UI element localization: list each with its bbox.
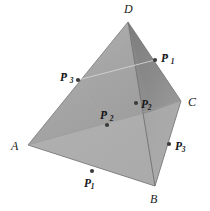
point-label-base: P [84,177,91,189]
point-label-subscript: 3 [182,145,186,154]
point-marker-p3p [76,78,80,82]
vertex-label-d: D [124,3,133,15]
point-label-subscript: 3 [70,76,74,85]
point-label-subscript: 1 [91,182,95,191]
point-label-base: P [141,98,148,110]
point-label-p1p: P′1 [161,53,175,65]
point-label-base: P [175,140,182,152]
point-label-p1: P1 [84,178,95,190]
point-marker-p3 [167,142,171,146]
point-marker-p1p [153,58,157,62]
point-label-subscript: 2 [148,103,152,112]
point-label-p3: P3 [175,141,186,153]
vertex-label-c: C [188,96,196,108]
point-label-p2: P2 [141,99,152,111]
point-label-subscript: 2 [110,114,114,123]
tetrahedron-illustration [0,0,210,211]
vertex-label-a: A [11,140,19,152]
point-marker-p2p [105,123,109,127]
point-label-p3p: P′3 [60,72,74,84]
geometry-figure: D A B C P1P2P3P′1P′2P′3 [0,0,210,211]
vertex-label-b: B [150,193,158,205]
point-label-p2p: P′2 [100,110,114,122]
point-label-subscript: 1 [171,57,175,66]
point-marker-p1 [90,169,94,173]
point-label-prime: ′ [165,51,168,63]
point-label-prime: ′ [64,70,67,82]
point-marker-p2 [134,101,138,105]
point-label-prime: ′ [104,108,107,120]
